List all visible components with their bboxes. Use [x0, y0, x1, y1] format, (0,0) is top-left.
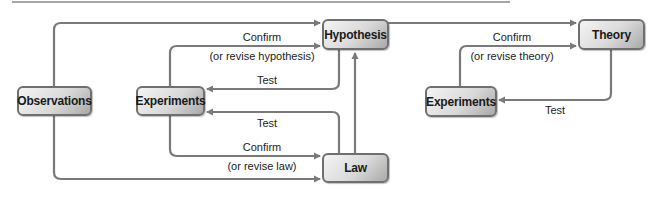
label-test-law: Test	[257, 117, 277, 129]
label-confirm-law: Confirm	[243, 141, 282, 153]
label-revise-hypothesis: (or revise hypothesis)	[209, 50, 314, 62]
label-test-theory: Test	[545, 104, 565, 116]
label-revise-law: (or revise law)	[227, 160, 296, 172]
label-confirm-hypothesis: Confirm	[243, 31, 282, 43]
label-confirm-theory: Confirm	[493, 31, 532, 43]
node-experiments-left: Experiments	[136, 86, 205, 116]
node-hypothesis: Hypothesis	[322, 19, 389, 50]
label-test-hypothesis: Test	[257, 74, 277, 86]
node-observations: Observations	[17, 86, 92, 116]
label-revise-theory: (or revise theory)	[470, 50, 553, 62]
node-theory: Theory	[578, 19, 645, 50]
node-law: Law	[322, 153, 389, 183]
scientific-method-diagram: Hypothesis Theory Observations Experimen…	[0, 0, 662, 197]
node-experiments-right: Experiments	[425, 86, 497, 117]
